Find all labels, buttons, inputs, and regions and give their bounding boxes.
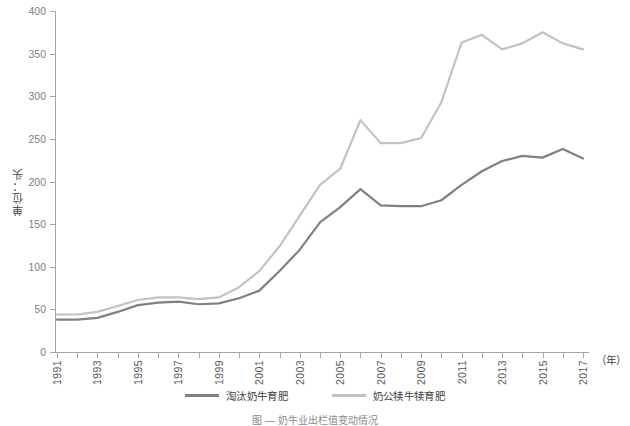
x-tick-1997 xyxy=(178,352,179,358)
y-tick-100 xyxy=(50,267,55,268)
x-tick-2001 xyxy=(259,352,260,358)
x-tick-label-1997: 1997 xyxy=(172,360,184,385)
x-tick-2000 xyxy=(239,352,240,358)
x-tick-1994 xyxy=(118,352,119,358)
x-tick-label-2009: 2009 xyxy=(415,360,427,385)
figure-caption: 图 — 奶牛业出栏值变动情况 xyxy=(0,412,630,426)
x-tick-label-2007: 2007 xyxy=(375,360,387,385)
y-tick-150 xyxy=(50,224,55,225)
chart-figure: 单位：头 400350300250200150100500 1991199319… xyxy=(0,0,630,426)
y-tick-250 xyxy=(50,139,55,140)
x-tick-label-2017: 2017 xyxy=(577,360,589,385)
x-tick-1992 xyxy=(77,352,78,358)
x-axis-line xyxy=(55,352,589,353)
x-tick-2008 xyxy=(401,352,402,358)
x-tick-2016 xyxy=(563,352,564,358)
y-tick-label-400: 400 xyxy=(0,6,46,16)
y-tick-label-350: 350 xyxy=(0,49,46,59)
legend-label-0: 淘汰奶牛育肥 xyxy=(226,388,288,403)
y-axis-unit-label: 单位：头 xyxy=(10,168,26,216)
x-tick-2010 xyxy=(441,352,442,358)
x-tick-label-2003: 2003 xyxy=(294,360,306,385)
legend-swatch-0 xyxy=(185,394,219,397)
legend-item-1[interactable]: 奶公犊牛犊育肥 xyxy=(332,388,445,403)
x-tick-label-1991: 1991 xyxy=(51,360,63,385)
y-tick-label-100: 100 xyxy=(0,262,46,272)
x-tick-1996 xyxy=(158,352,159,358)
x-tick-2002 xyxy=(280,352,281,358)
x-tick-2003 xyxy=(300,352,301,358)
x-tick-2005 xyxy=(340,352,341,358)
x-tick-1991 xyxy=(57,352,58,358)
x-tick-label-2011: 2011 xyxy=(456,360,468,384)
x-tick-label-1993: 1993 xyxy=(91,360,103,385)
legend-item-0[interactable]: 淘汰奶牛育肥 xyxy=(185,388,288,403)
x-tick-2015 xyxy=(543,352,544,358)
x-tick-2013 xyxy=(502,352,503,358)
x-tick-2011 xyxy=(462,352,463,358)
x-tick-1999 xyxy=(219,352,220,358)
x-tick-2004 xyxy=(320,352,321,358)
y-tick-300 xyxy=(50,96,55,97)
x-tick-2014 xyxy=(522,352,523,358)
legend-swatch-1 xyxy=(332,394,366,397)
y-tick-label-150: 150 xyxy=(0,219,46,229)
x-tick-1993 xyxy=(97,352,98,358)
y-tick-label-250: 250 xyxy=(0,134,46,144)
x-tick-label-1999: 1999 xyxy=(213,360,225,385)
y-tick-0 xyxy=(50,352,55,353)
y-tick-label-0: 0 xyxy=(0,347,46,357)
y-tick-label-50: 50 xyxy=(0,304,46,314)
x-tick-1998 xyxy=(199,352,200,358)
x-tick-label-2013: 2013 xyxy=(496,360,508,385)
y-tick-200 xyxy=(50,182,55,183)
y-tick-350 xyxy=(50,54,55,55)
x-tick-label-2005: 2005 xyxy=(334,360,346,385)
legend-label-1: 奶公犊牛犊育肥 xyxy=(373,388,445,403)
chart-legend: 淘汰奶牛育肥 奶公犊牛犊育肥 xyxy=(0,388,630,403)
y-tick-50 xyxy=(50,309,55,310)
x-tick-label-2015: 2015 xyxy=(537,360,549,385)
x-tick-2007 xyxy=(381,352,382,358)
x-tick-2012 xyxy=(482,352,483,358)
x-tick-2006 xyxy=(360,352,361,358)
x-tick-1995 xyxy=(138,352,139,358)
x-axis-unit-label: （年） xyxy=(596,352,626,367)
x-tick-2017 xyxy=(583,352,584,358)
y-tick-400 xyxy=(50,11,55,12)
x-tick-label-2001: 2001 xyxy=(253,360,265,385)
y-axis-line xyxy=(55,11,56,353)
series-line-0 xyxy=(57,149,583,319)
y-tick-label-200: 200 xyxy=(0,177,46,187)
y-tick-label-300: 300 xyxy=(0,91,46,101)
x-tick-2009 xyxy=(421,352,422,358)
series-line-1 xyxy=(57,32,583,314)
x-tick-label-1995: 1995 xyxy=(132,360,144,385)
